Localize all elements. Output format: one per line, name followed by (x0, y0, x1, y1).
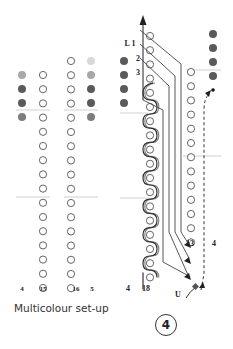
needle-hole (146, 217, 153, 224)
arrow-up-icon (140, 15, 147, 25)
needle-hole (39, 270, 46, 277)
needle-hole (187, 154, 194, 161)
diagram-label: 16 (73, 285, 81, 293)
needle-hole (67, 114, 74, 121)
needle-hole (146, 231, 153, 238)
needle-hole (67, 270, 74, 277)
left-guide-lines (16, 110, 98, 197)
diagram-label: U (175, 290, 181, 299)
needle-hole (39, 86, 46, 93)
needle-hole (39, 171, 46, 178)
needle-hole (187, 83, 194, 90)
needle-hole (39, 199, 46, 206)
needle-hole (146, 203, 153, 210)
yarn-color-dot (120, 85, 128, 93)
needle-hole (39, 256, 46, 263)
needle-hole (187, 225, 194, 232)
yarn-color-dot (120, 57, 128, 65)
needle-hole (187, 139, 194, 146)
diagram-label: 4 (20, 285, 24, 293)
figure-number-badge: 4 (155, 314, 177, 336)
needle-hole (67, 143, 74, 150)
needle-hole (146, 160, 153, 167)
needle-hole (67, 199, 74, 206)
diagram-label: L 1 (125, 39, 136, 48)
yarn-end-dot (211, 88, 215, 92)
diagram-label: 18 (142, 284, 150, 293)
diagram-label: 5 (90, 285, 94, 293)
diagram-label: 2 (136, 54, 140, 63)
diagram-label: 4 (126, 284, 130, 293)
needle-hole (39, 71, 46, 78)
diagram-label: 3 (136, 68, 140, 77)
needle-hole (39, 242, 46, 249)
needle-hole (146, 274, 153, 281)
needle-hole (67, 86, 74, 93)
needle-hole (187, 97, 194, 104)
needle-hole (39, 100, 46, 107)
yarn-color-dot (120, 71, 128, 79)
needle-hole (67, 256, 74, 263)
needle-hole (146, 245, 153, 252)
yarn-color-dot (18, 85, 26, 93)
needle-hole (67, 57, 74, 64)
needle-hole (146, 260, 153, 267)
needle-hole (67, 228, 74, 235)
needle-hole (187, 196, 194, 203)
right-labels: L 123134418U (125, 39, 216, 299)
needle-hole (187, 111, 194, 118)
needle-hole (67, 185, 74, 192)
needle-hole (187, 210, 194, 217)
needle-hole (39, 142, 46, 149)
needle-hole (67, 100, 74, 107)
yarn-color-dot (18, 99, 26, 107)
needle-hole (39, 157, 46, 164)
arrow-icon (205, 90, 211, 97)
needle-hole (146, 75, 153, 82)
needle-hole (187, 68, 194, 75)
yarn-color-dot (209, 44, 217, 52)
needle-hole (67, 157, 74, 164)
diagram-label: 13 (186, 239, 194, 248)
needle-hole (146, 118, 153, 125)
needle-hole (146, 146, 153, 153)
needle-hole (146, 61, 153, 68)
needle-hole (187, 168, 194, 175)
needle-hole (39, 213, 46, 220)
needle-hole (39, 228, 46, 235)
needle-hole (67, 128, 74, 135)
yarn-color-dot (209, 58, 217, 66)
needle-hole (67, 214, 74, 221)
needle-hole (146, 174, 153, 181)
yarn-color-dot (87, 57, 95, 65)
needle-hole (39, 114, 46, 121)
needle-hole (67, 72, 74, 79)
yarn-color-dot (18, 113, 26, 121)
needle-hole (67, 171, 74, 178)
left-labels: 415165 (20, 285, 94, 293)
right-guide-lines (120, 70, 221, 198)
yarn-color-dot (209, 30, 217, 38)
yarn-color-dot (87, 85, 95, 93)
yarn-color-dot (209, 72, 217, 80)
yarn-color-dot (18, 71, 26, 79)
needle-hole (39, 128, 46, 135)
threading-diagram: 415165 L 123134418U (0, 0, 233, 349)
needle-hole (187, 182, 194, 189)
yarn-color-dot (120, 99, 128, 107)
needle-hole (146, 189, 153, 196)
needle-hole (146, 132, 153, 139)
serpentine-yarn-path (143, 83, 159, 290)
needle-hole (39, 185, 46, 192)
figure-caption: Multicolour set-up (14, 302, 109, 314)
diagram-label: 15 (40, 285, 48, 293)
needle-hole (67, 242, 74, 249)
yarn-color-dot (87, 71, 95, 79)
left-hole-columns (39, 57, 74, 291)
diagram-label: 4 (212, 239, 216, 248)
left-color-dots (18, 57, 95, 121)
arrow-icon (184, 257, 191, 264)
needle-hole (187, 125, 194, 132)
yarn-color-dot (87, 113, 95, 121)
yarn-color-dot (87, 99, 95, 107)
